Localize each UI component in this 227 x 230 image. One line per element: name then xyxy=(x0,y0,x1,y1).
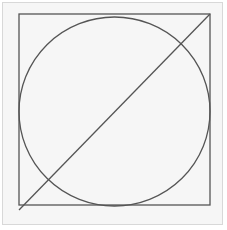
geometry-diagram xyxy=(0,0,227,230)
